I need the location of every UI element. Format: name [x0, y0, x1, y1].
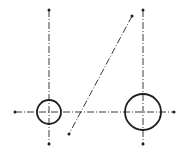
diagonal-top-point — [131, 15, 134, 18]
right-vertical-top-point — [142, 9, 145, 12]
left-vertical-top-point — [48, 9, 51, 12]
horizontal-centerline-end-point — [173, 111, 176, 114]
diagonal-construction-line — [69, 16, 132, 134]
horizontal-centerline-start-point — [14, 111, 17, 114]
diagonal-bottom-point — [68, 133, 71, 136]
diagram-canvas — [0, 0, 185, 156]
right-vertical-bottom-point — [142, 143, 145, 146]
left-vertical-bottom-point — [48, 143, 51, 146]
